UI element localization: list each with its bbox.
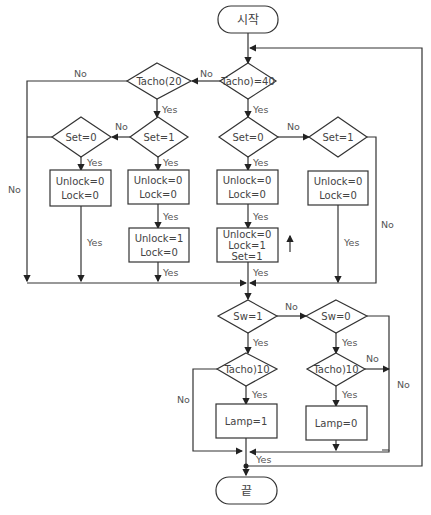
decision-sw-0-label: Sw=0 xyxy=(321,311,350,322)
decision-sw-1-label: Sw=1 xyxy=(233,311,262,322)
yes-label: Yes xyxy=(343,237,359,248)
yes-label: Yes xyxy=(162,211,178,222)
junction-dot xyxy=(244,464,249,469)
flowchart: 시작 Tacho)=40 No Yes Tacho(20 No No Yes S… xyxy=(0,0,431,515)
decision-set-1-left-label: Set=1 xyxy=(143,132,174,143)
no-label: No xyxy=(381,219,394,230)
p1-line2: Lock=0 xyxy=(61,190,99,201)
p2-line2: Lock=0 xyxy=(139,189,177,200)
p2-line1: Unlock=0 xyxy=(134,175,183,186)
yes-label: Yes xyxy=(162,267,178,278)
start-label: 시작 xyxy=(237,13,259,27)
no-label: No xyxy=(366,353,379,364)
yes-label: Yes xyxy=(252,104,268,115)
no-label: No xyxy=(397,379,410,390)
p4-line2: Lock=0 xyxy=(228,189,266,200)
end-label: 끝 xyxy=(241,484,252,498)
no-label: No xyxy=(115,121,128,132)
yes-label: Yes xyxy=(341,337,357,348)
p5-line1: Unlock=0 xyxy=(223,229,272,240)
lamp-on-label: Lamp=1 xyxy=(225,416,268,427)
p1-line1: Unlock=0 xyxy=(56,176,105,187)
yes-label: Yes xyxy=(161,104,177,115)
yes-label: Yes xyxy=(162,157,178,168)
decision-set-0-right-label: Set=0 xyxy=(232,132,263,143)
decision-set-0-left-label: Set=0 xyxy=(65,132,96,143)
no-label: No xyxy=(200,68,213,79)
yes-label: Yes xyxy=(252,337,268,348)
yes-label: Yes xyxy=(341,389,357,400)
decision-tacho-lt-20-label: Tacho(20 xyxy=(135,76,181,87)
p5-line3: Set=1 xyxy=(231,251,262,262)
decision-tacho-gt-10-right-label: Tacho)10 xyxy=(312,364,358,375)
lamp-off-label: Lamp=0 xyxy=(315,418,358,429)
p3-line1: Unlock=1 xyxy=(135,233,184,244)
yes-label: Yes xyxy=(86,157,102,168)
yes-label: Yes xyxy=(252,157,268,168)
no-label: No xyxy=(74,68,87,79)
p6-line2: Lock=0 xyxy=(319,190,357,201)
yes-label: Yes xyxy=(86,237,102,248)
yes-label: Yes xyxy=(252,211,268,222)
yes-label: Yes xyxy=(251,389,267,400)
yes-label: Yes xyxy=(255,454,271,465)
decision-tacho-ge-40-label: Tacho)=40 xyxy=(220,76,275,87)
p4-line1: Unlock=0 xyxy=(223,175,272,186)
p6-line1: Unlock=0 xyxy=(314,176,363,187)
no-label: No xyxy=(8,184,21,195)
no-label: No xyxy=(285,301,298,312)
no-label: No xyxy=(287,121,300,132)
decision-tacho-gt-10-left-label: Tacho)10 xyxy=(223,364,269,375)
decision-set-1-right-label: Set=1 xyxy=(322,132,353,143)
p5-line2: Lock=1 xyxy=(228,240,266,251)
no-label: No xyxy=(177,394,190,405)
p3-line2: Lock=0 xyxy=(140,247,178,258)
yes-label: Yes xyxy=(252,267,268,278)
